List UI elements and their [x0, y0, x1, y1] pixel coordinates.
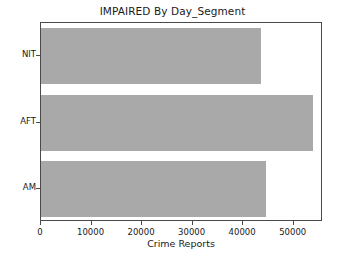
y-tick-label-nit: NIT: [6, 49, 36, 59]
x-tick-mark: [40, 221, 41, 225]
y-tick-mark: [36, 188, 40, 189]
x-tick-label-30000: 30000: [178, 227, 205, 237]
x-tick-label-50000: 50000: [279, 227, 306, 237]
y-tick-label-am: AM: [6, 182, 36, 192]
chart-figure: IMPAIRED By Day_Segment AMAFTNIT 0100002…: [0, 0, 345, 258]
x-tick-label-40000: 40000: [229, 227, 256, 237]
x-tick-mark: [141, 221, 142, 225]
bar-rect: [41, 28, 261, 84]
bar-nit: [41, 28, 322, 84]
x-tick-label-20000: 20000: [128, 227, 155, 237]
bar-aft: [41, 95, 322, 151]
bar-am: [41, 161, 322, 217]
chart-title: IMPAIRED By Day_Segment: [0, 5, 345, 17]
bar-rect: [41, 95, 313, 151]
plot-area: [40, 22, 322, 221]
y-axis: AMAFTNIT: [0, 0, 36, 258]
x-tick-mark: [293, 221, 294, 225]
bar-rect: [41, 161, 266, 217]
x-tick-mark: [91, 221, 92, 225]
y-tick-label-aft: AFT: [6, 116, 36, 126]
x-axis-label: Crime Reports: [40, 238, 322, 249]
x-tick-mark: [242, 221, 243, 225]
y-tick-mark: [36, 122, 40, 123]
y-tick-mark: [36, 55, 40, 56]
x-tick-label-0: 0: [37, 227, 42, 237]
x-tick-mark: [192, 221, 193, 225]
x-tick-label-10000: 10000: [77, 227, 104, 237]
